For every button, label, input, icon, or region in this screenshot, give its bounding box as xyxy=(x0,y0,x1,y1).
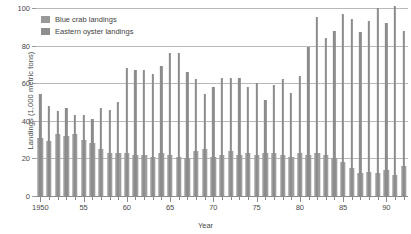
bar-group-1973 xyxy=(235,8,244,196)
bar-blue-crab xyxy=(255,83,257,196)
bar-blue-crab xyxy=(368,21,370,196)
x-axis-title: Year xyxy=(0,221,411,230)
bar-blue-crab xyxy=(333,31,335,196)
bar-blue-crab xyxy=(273,85,275,196)
bar-group-1972 xyxy=(226,8,235,196)
bar-group-1974 xyxy=(244,8,253,196)
x-axis-tick-mark xyxy=(205,196,206,200)
bar-group-1988 xyxy=(365,8,374,196)
y-axis-title: Landings (1,000 metric tons) xyxy=(26,11,35,191)
y-axis-tick-label: 60 xyxy=(4,79,30,88)
x-axis-tick-label: 80 xyxy=(296,203,304,212)
bar-group-1969 xyxy=(200,8,209,196)
x-axis-tick-mark xyxy=(352,196,353,200)
bar-blue-crab xyxy=(74,115,76,196)
x-axis-tick-mark xyxy=(404,196,405,200)
x-axis-tick-mark xyxy=(213,196,214,202)
bar-blue-crab xyxy=(39,94,41,196)
x-axis-tick-mark xyxy=(153,196,154,200)
x-axis-tick-mark xyxy=(317,196,318,200)
bar-group-1970 xyxy=(209,8,218,196)
x-axis-tick-mark xyxy=(58,196,59,200)
y-axis-tick-label: 0 xyxy=(4,192,30,201)
bar-group-1985 xyxy=(339,8,348,196)
x-axis-tick-mark xyxy=(369,196,370,200)
x-axis-tick-mark xyxy=(378,196,379,200)
x-axis-tick-mark xyxy=(84,196,85,202)
x-axis-tick-label: 75 xyxy=(252,203,260,212)
bar-group-1965 xyxy=(166,8,175,196)
bar-blue-crab xyxy=(307,47,309,196)
bar-blue-crab xyxy=(178,53,180,196)
x-axis-tick-mark xyxy=(274,196,275,200)
bar-group-1964 xyxy=(157,8,166,196)
x-axis-tick-mark xyxy=(49,196,50,200)
bar-blue-crab xyxy=(359,32,361,196)
bar-blue-crab xyxy=(281,79,283,196)
x-axis-tick-mark xyxy=(231,196,232,200)
bar-group-1984 xyxy=(330,8,339,196)
bar-blue-crab xyxy=(316,17,318,196)
bar-group-1968 xyxy=(192,8,201,196)
bar-group-1986 xyxy=(347,8,356,196)
bar-blue-crab xyxy=(342,14,344,196)
bar-blue-crab xyxy=(385,23,387,196)
bar-blue-crab xyxy=(238,78,240,196)
bar-blue-crab xyxy=(82,115,84,196)
bar-blue-crab xyxy=(169,53,171,196)
bar-group-1992 xyxy=(399,8,408,196)
bar-group-1990 xyxy=(382,8,391,196)
bar-group-1981 xyxy=(304,8,313,196)
x-axis-tick-mark xyxy=(196,196,197,200)
legend-item-blue-crab: Blue crab landings xyxy=(41,15,133,24)
bar-group-1989 xyxy=(373,8,382,196)
x-axis-tick-mark xyxy=(283,196,284,200)
x-axis-tick-label: 60 xyxy=(123,203,131,212)
bar-blue-crab xyxy=(126,68,128,196)
bar-blue-crab xyxy=(56,111,58,196)
x-axis-tick-mark xyxy=(135,196,136,200)
x-axis-tick-mark xyxy=(75,196,76,200)
bar-group-1979 xyxy=(287,8,296,196)
legend-label-blue-crab: Blue crab landings xyxy=(55,15,117,24)
chart-legend: Blue crab landings Eastern oyster landin… xyxy=(41,15,133,39)
bar-blue-crab xyxy=(134,70,136,196)
x-axis-tick-mark xyxy=(179,196,180,200)
bar-blue-crab xyxy=(186,72,188,196)
x-axis-tick-mark xyxy=(144,196,145,200)
x-axis-tick-mark xyxy=(257,196,258,202)
y-axis-tick-label: 100 xyxy=(4,4,30,13)
bar-group-1975 xyxy=(252,8,261,196)
y-axis-tick-label: 40 xyxy=(4,116,30,125)
bar-blue-crab xyxy=(160,66,162,196)
bar-blue-crab xyxy=(394,6,396,196)
bar-blue-crab xyxy=(403,31,405,196)
x-axis-tick-mark xyxy=(291,196,292,200)
bar-blue-crab xyxy=(108,110,110,196)
bar-group-1978 xyxy=(278,8,287,196)
x-axis-tick-mark xyxy=(92,196,93,200)
x-axis-tick-mark xyxy=(170,196,171,202)
x-axis-tick-mark xyxy=(309,196,310,200)
x-axis-tick-mark xyxy=(187,196,188,200)
x-axis-tick-mark xyxy=(360,196,361,200)
bar-blue-crab xyxy=(247,87,249,196)
bar-group-1983 xyxy=(321,8,330,196)
bar-blue-crab xyxy=(229,78,231,196)
chart-container: Landings (1,000 metric tons) 02040608010… xyxy=(0,0,411,234)
bar-blue-crab xyxy=(117,102,119,196)
x-axis-tick-mark xyxy=(265,196,266,200)
x-axis-tick-label: 65 xyxy=(166,203,174,212)
x-axis-tick-mark xyxy=(118,196,119,200)
x-axis-tick-label: 70 xyxy=(209,203,217,212)
x-axis-tick-mark xyxy=(395,196,396,200)
bar-group-1967 xyxy=(183,8,192,196)
bar-blue-crab xyxy=(377,8,379,196)
x-axis-tick-label: 55 xyxy=(79,203,87,212)
bar-blue-crab xyxy=(65,108,67,196)
bar-blue-crab xyxy=(152,74,154,196)
bar-blue-crab xyxy=(91,119,93,196)
x-axis-tick-mark xyxy=(326,196,327,200)
bar-group-1977 xyxy=(270,8,279,196)
bar-blue-crab xyxy=(48,106,50,196)
